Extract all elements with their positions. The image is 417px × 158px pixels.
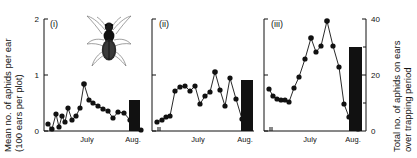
panel-ii: (ii) July Aug. [146, 0, 258, 158]
panel-iii-x-axis [264, 127, 362, 131]
panel-ii-x-axis [152, 127, 254, 131]
panel-iii-right-axis [362, 19, 366, 131]
right-axis-label-line2: over trapping period [402, 41, 413, 152]
left-axis-label-line1: Mean no. of aphids per ear [2, 38, 13, 152]
panel-ii-xtick-aug: Aug. [237, 135, 252, 144]
panel-i-xtick-july: July [80, 135, 94, 144]
left-axis-label: Mean no. of aphids per ear (100 ears per… [2, 38, 24, 152]
panel-iii-tag: (iii) [271, 19, 283, 29]
panel-i-ytick-1: 1 [35, 71, 40, 80]
figure-container: Mean no. of aphids per ear (100 ears per… [0, 0, 417, 158]
panel-iii-xtick-july: July [303, 135, 317, 144]
panel-iii-xtick-aug: Aug. [345, 135, 360, 144]
panel-ii-plot: (ii) July Aug. [146, 0, 258, 158]
panel-iii-august-bar [349, 47, 362, 131]
panel-ii-y-axis [152, 19, 156, 131]
panel-i: 2 1 0 (i) July Aug. [28, 0, 146, 158]
panel-iii-data-points [266, 18, 360, 131]
right-axis-label-line1: Total no. of aphids on ears [391, 41, 402, 152]
right-ytick-20: 20 [371, 71, 380, 80]
panel-ii-august-bar [241, 80, 253, 131]
panel-ii-xtick-july: July [191, 135, 205, 144]
panel-i-series-line [48, 84, 141, 130]
panel-ii-tag: (ii) [159, 19, 169, 29]
panel-iii: (iii) July Aug. [258, 0, 370, 158]
panel-iii-plot: (iii) July Aug. [258, 0, 370, 158]
panel-i-august-bar [129, 100, 140, 131]
right-axis-label: Total no. of aphids on ears over trappin… [391, 41, 413, 152]
panel-i-xtick-aug: Aug. [125, 135, 140, 144]
left-axis-label-line2: (100 ears per plot) [13, 38, 24, 152]
panel-ii-data-points [154, 69, 249, 125]
panel-iii-y-axis [264, 19, 268, 131]
winged-aphid-icon [85, 14, 133, 72]
panel-i-ytick-0: 0 [35, 127, 40, 136]
panel-i-data-points [45, 81, 143, 132]
panel-i-tag: (i) [50, 19, 58, 29]
right-ytick-0: 0 [371, 127, 376, 136]
panel-i-ytick-2: 2 [35, 15, 40, 24]
panel-i-y-axis [44, 19, 48, 131]
right-ytick-40: 40 [371, 15, 380, 24]
